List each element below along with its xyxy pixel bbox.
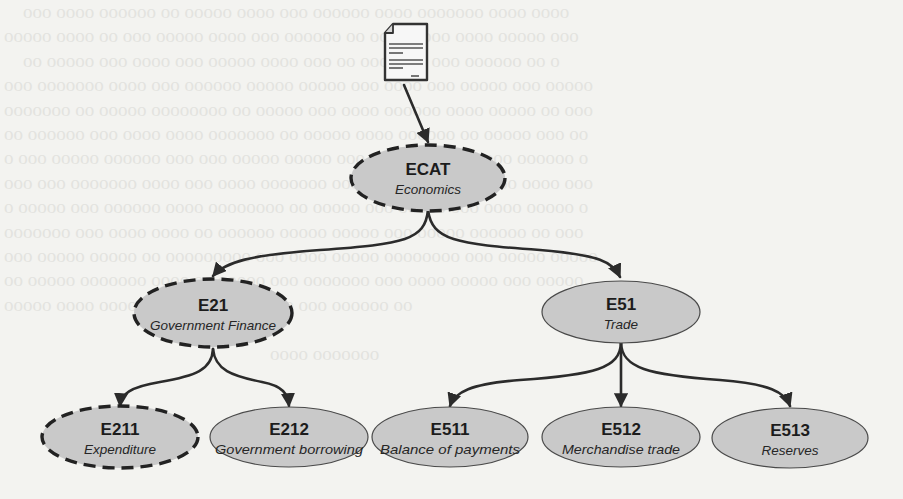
diagram-canvas: ooo oooo oooooo oo ooooo oooo ooo oooooo… xyxy=(0,0,903,499)
node-ecat-label: Economics xyxy=(395,182,461,197)
edge-e21-e211 xyxy=(120,349,213,406)
node-e513[interactable]: E513 Reserves xyxy=(712,408,868,468)
edge-document-ecat xyxy=(404,85,428,142)
edge-ecat-e21 xyxy=(213,210,428,276)
edge-e21-e212 xyxy=(213,349,289,406)
document-icon xyxy=(385,24,427,80)
node-e211[interactable]: E211 Expenditure xyxy=(42,406,198,468)
node-e211-code: E211 xyxy=(101,420,140,439)
node-e21-code: E21 xyxy=(198,296,228,315)
node-ecat[interactable]: ECAT Economics xyxy=(351,145,505,211)
node-e51[interactable]: E51 Trade xyxy=(542,281,700,343)
node-e511-label: Balance of payments xyxy=(380,442,520,457)
node-e511[interactable]: E511 Balance of payments xyxy=(372,407,528,467)
node-e21[interactable]: E21 Government Finance xyxy=(134,279,292,347)
node-e51-code: E51 xyxy=(606,295,636,314)
node-e51-label: Trade xyxy=(604,317,638,332)
node-e211-label: Expenditure xyxy=(84,442,156,457)
node-e212[interactable]: E212 Government borrowing xyxy=(210,407,368,467)
category-tree-diagram: ECAT Economics E21 Government Finance E5… xyxy=(0,0,903,499)
node-e212-code: E212 xyxy=(269,420,309,439)
node-ecat-code: ECAT xyxy=(405,160,451,179)
edges xyxy=(120,85,790,406)
edge-ecat-e51 xyxy=(428,210,620,277)
node-e511-code: E511 xyxy=(431,420,470,439)
node-e21-label: Government Finance xyxy=(150,318,276,333)
node-e513-label: Reserves xyxy=(761,443,818,458)
edge-e51-e513 xyxy=(621,343,790,406)
node-e212-label: Government borrowing xyxy=(215,442,364,457)
edge-e51-e511 xyxy=(450,343,621,406)
node-e513-code: E513 xyxy=(770,421,810,440)
node-e512[interactable]: E512 Merchandise trade xyxy=(542,407,700,467)
node-e512-label: Merchandise trade xyxy=(562,442,680,457)
node-e512-code: E512 xyxy=(601,420,641,439)
